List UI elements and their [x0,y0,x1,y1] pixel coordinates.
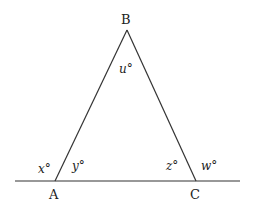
angle-label-y: y° [71,159,85,173]
vertex-label-b: B [121,12,131,27]
angle-label-u: u° [119,62,133,76]
angle-label-w: w° [201,159,217,173]
side-BC [127,30,196,181]
triangle-diagram: B A C u° x° y° z° w° [0,0,253,207]
vertex-label-a: A [48,187,59,202]
vertex-label-c: C [190,187,200,202]
angle-label-x: x° [38,162,51,176]
angle-label-z: z° [165,159,178,173]
side-AB [55,30,127,181]
